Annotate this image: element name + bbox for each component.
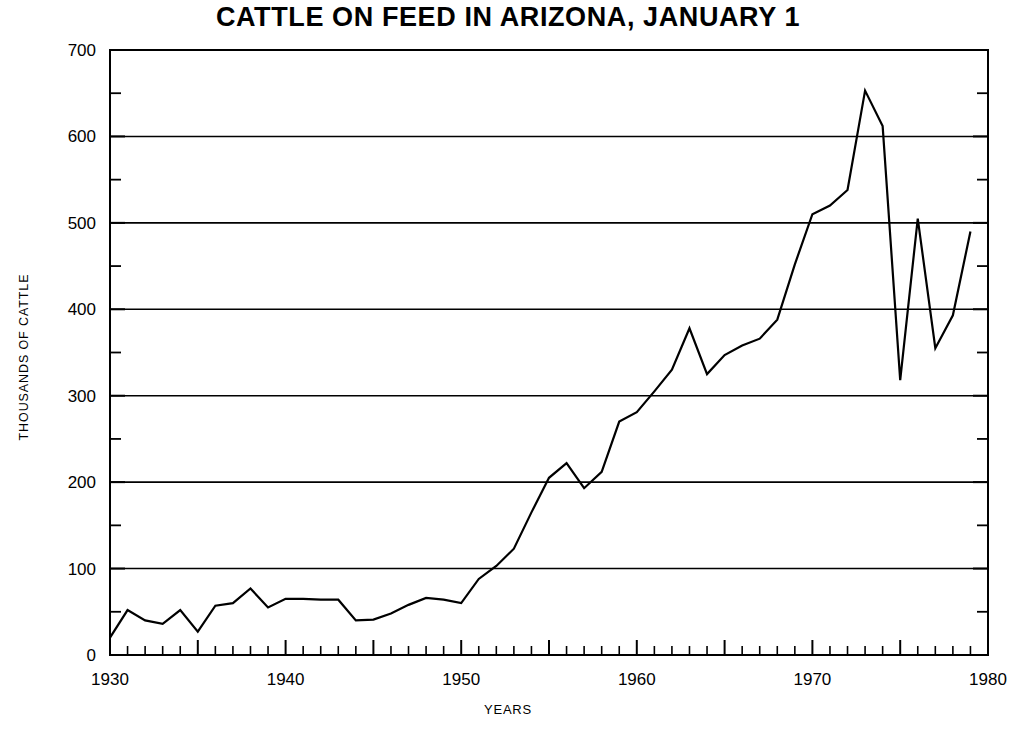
y-tick-label: 100 <box>68 560 96 579</box>
y-tick-label: 500 <box>68 214 96 233</box>
y-tick-label: 200 <box>68 473 96 492</box>
y-tick-label: 600 <box>68 127 96 146</box>
x-tick-label: 1970 <box>793 670 831 689</box>
chart-figure: CATTLE ON FEED IN ARIZONA, JANUARY 1 THO… <box>0 0 1016 732</box>
x-tick-label: 1940 <box>267 670 305 689</box>
x-tick-label: 1950 <box>442 670 480 689</box>
x-tick-label: 1960 <box>618 670 656 689</box>
y-tick-label: 0 <box>87 646 96 665</box>
x-tick-label: 1930 <box>91 670 129 689</box>
y-axis-tick-labels: 0100200300400500600700 <box>68 41 96 665</box>
y-tick-label: 400 <box>68 300 96 319</box>
x-axis-tick-labels: 193019401950196019701980 <box>91 670 1007 689</box>
gridlines <box>110 136 988 568</box>
cattle-on-feed-line <box>110 91 970 638</box>
plot-area: 0100200300400500600700 19301940195019601… <box>0 0 1016 732</box>
y-tick-label: 300 <box>68 387 96 406</box>
x-tick-label: 1980 <box>969 670 1007 689</box>
x-axis-ticks <box>110 640 988 655</box>
y-tick-label: 700 <box>68 41 96 60</box>
